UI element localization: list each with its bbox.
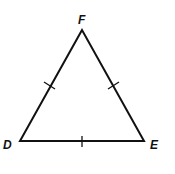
- triangle-def: [20, 30, 144, 141]
- vertex-label-f: F: [78, 13, 86, 27]
- triangle-diagram: F D E: [0, 0, 175, 174]
- vertex-label-e: E: [150, 138, 159, 152]
- vertex-label-d: D: [3, 138, 12, 152]
